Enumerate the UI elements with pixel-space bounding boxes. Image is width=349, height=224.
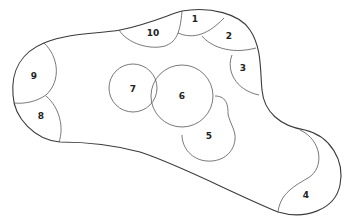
label-region-8: 8 (38, 111, 44, 121)
region-8-border (46, 96, 61, 142)
region-1-border (178, 18, 224, 36)
circle-5 (182, 96, 235, 161)
label-region-10: 10 (147, 28, 160, 38)
region-diagram: 1 2 3 4 5 6 7 8 9 10 (0, 0, 349, 224)
label-region-7: 7 (130, 84, 136, 94)
outer-boundary (13, 10, 341, 215)
label-region-6: 6 (179, 91, 185, 101)
label-region-1: 1 (192, 14, 198, 24)
label-region-9: 9 (31, 71, 37, 81)
label-region-2: 2 (226, 31, 232, 41)
region-3-border (230, 55, 259, 95)
label-region-4: 4 (303, 190, 309, 200)
label-region-3: 3 (240, 63, 246, 73)
label-region-5: 5 (206, 131, 212, 141)
region-4-border (278, 130, 319, 212)
